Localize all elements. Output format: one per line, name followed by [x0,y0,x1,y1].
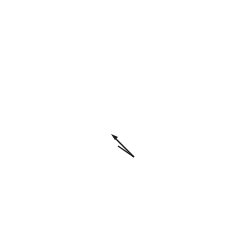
parabola-chart [0,0,229,246]
annotation-arrows [111,134,134,157]
